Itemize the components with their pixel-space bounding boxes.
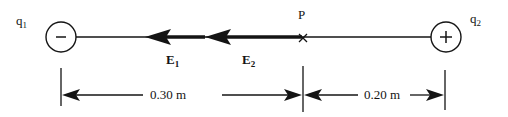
charge-label-q1-symbol: q [16,13,23,28]
charge-label-q1-subscript: 1 [23,20,28,30]
field-label-e2-symbol: E [242,52,251,67]
charge-label-q2: q2 [470,12,481,25]
charge-label-q2-subscript: 2 [477,18,482,28]
field-label-e1-subscript: 1 [175,59,180,69]
charge-label-q1: q1 [16,14,27,27]
field-label-e1: E1 [166,53,179,66]
field-label-e1-symbol: E [166,52,175,67]
physics-field-diagram: q1 q2 P E1 E2 0.30 m 0.20 m [0,0,508,117]
field-label-e2-subscript: 2 [251,59,256,69]
field-label-e2: E2 [242,53,255,66]
dimension-label-left: 0.30 m [150,88,186,101]
charge-label-q2-symbol: q [470,11,477,26]
point-label-p: P [298,8,305,21]
dimension-label-right: 0.20 m [364,88,400,101]
